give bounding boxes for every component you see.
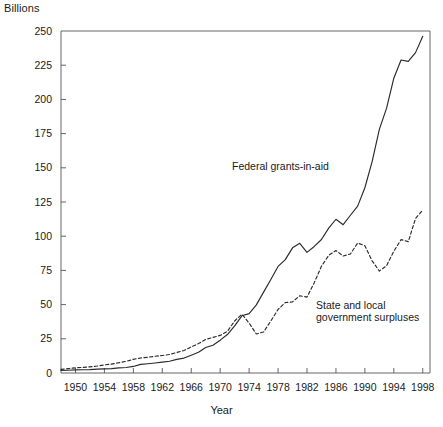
x-tick-label: 1974 (237, 381, 261, 393)
line-chart-canvas: 0255075100125150175200225250 19501954195… (0, 0, 443, 427)
series-line-state-local-surpluses (61, 210, 423, 369)
x-tick-label: 1994 (382, 381, 406, 393)
y-tick-label: 0 (46, 367, 52, 379)
x-tick-label: 1998 (411, 381, 435, 393)
y-axis-tick-marks (61, 65, 66, 339)
y-tick-label: 125 (34, 196, 52, 208)
y-tick-label: 75 (40, 264, 52, 276)
y-tick-label: 150 (34, 161, 52, 173)
y-tick-label: 50 (40, 298, 52, 310)
x-axis-tick-marks (75, 368, 422, 373)
series-label-federal-grants-in-aid: Federal grants-in-aid (232, 160, 329, 172)
y-tick-label: 25 (40, 332, 52, 344)
y-tick-label: 200 (34, 93, 52, 105)
chart-figure: Billions 0255075100125150175200225250 19… (0, 0, 443, 427)
y-tick-label: 250 (34, 25, 52, 37)
x-tick-label: 1950 (64, 381, 88, 393)
x-axis-tick-labels: 1950195419581962196619701974197819821986… (64, 381, 435, 393)
x-tick-label: 1954 (93, 381, 117, 393)
x-tick-label: 1986 (324, 381, 348, 393)
y-axis-tick-labels: 0255075100125150175200225250 (34, 25, 52, 379)
x-tick-label: 1990 (353, 381, 377, 393)
x-tick-label: 1966 (180, 381, 204, 393)
x-tick-label: 1982 (295, 381, 319, 393)
x-tick-label: 1958 (122, 381, 146, 393)
y-tick-label: 225 (34, 59, 52, 71)
series-label-state-local-surpluses: State and local government surpluses (316, 299, 419, 323)
x-tick-label: 1978 (266, 381, 290, 393)
y-tick-label: 175 (34, 127, 52, 139)
x-tick-label: 1962 (151, 381, 175, 393)
x-axis-title: Year (0, 404, 443, 416)
x-tick-label: 1970 (208, 381, 232, 393)
y-tick-label: 100 (34, 230, 52, 242)
